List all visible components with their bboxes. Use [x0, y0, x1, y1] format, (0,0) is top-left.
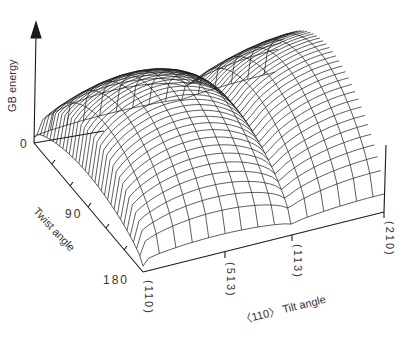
- energy-surface-wireframe: [34, 31, 384, 266]
- z-axis: [34, 34, 36, 143]
- tilt-axis: [143, 212, 384, 272]
- twist-axis: [34, 143, 143, 272]
- tilt-tick-110: (110): [143, 280, 155, 315]
- tilt-tick-513: (513): [225, 262, 237, 298]
- right-edge: [384, 145, 386, 212]
- tilt-tick-210: (210): [384, 221, 396, 257]
- twist-tick-90: 90: [65, 207, 82, 221]
- tilt-ticks: [225, 212, 384, 258]
- tilt-tick-113: (113): [292, 244, 304, 279]
- z-axis-label: GB energy: [6, 59, 18, 112]
- gb-energy-surface-plot: [0, 0, 408, 340]
- z-axis-arrow-icon: [31, 22, 41, 38]
- twist-tick-180: 180: [103, 273, 129, 287]
- z-origin-label: 0: [20, 137, 27, 151]
